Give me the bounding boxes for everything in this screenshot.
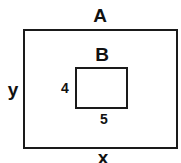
diagram-canvas: A B y x 4 5 [0, 0, 181, 163]
inner-rectangle-label: B [92, 45, 112, 64]
outer-rectangle-label: A [90, 6, 110, 25]
inner-rectangle-b [75, 67, 128, 109]
outer-width-label: x [97, 148, 109, 163]
inner-width-label: 5 [98, 112, 110, 126]
outer-height-label: y [6, 80, 20, 99]
inner-height-label: 4 [59, 81, 71, 95]
